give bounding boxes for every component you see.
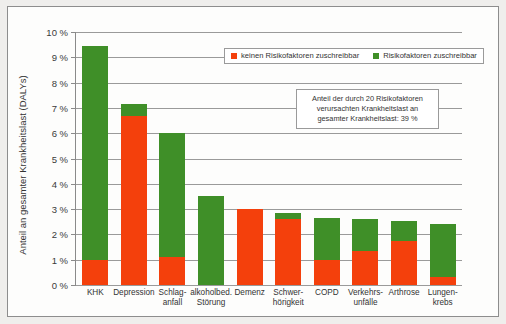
y-axis-tick (71, 285, 76, 286)
x-axis-label-line: krebs (417, 298, 468, 308)
y-axis-tick-label: 5 % (52, 153, 68, 164)
bar-segment-risikofaktoren (198, 196, 224, 285)
bar-slot (308, 32, 347, 285)
stacked-bar[interactable] (430, 224, 456, 285)
chart-frame: Anteil an gesamter Krankheitslast (DALYs… (7, 6, 499, 317)
bar-segment-keinen-risikofaktoren (314, 260, 340, 285)
y-axis-tick-label: 2 % (52, 229, 68, 240)
legend-swatch-icon (231, 53, 237, 59)
stacked-bar[interactable] (352, 219, 378, 285)
y-axis-tick-label: 7 % (52, 102, 68, 113)
bar-segment-keinen-risikofaktoren (430, 277, 456, 285)
bar-slot (230, 32, 269, 285)
stacked-bar[interactable] (314, 218, 340, 285)
bar-segment-risikofaktoren (82, 46, 108, 260)
bar-slot (153, 32, 192, 285)
bar-segment-keinen-risikofaktoren (121, 116, 147, 286)
legend-swatch-icon (373, 53, 379, 59)
y-axis-tick-label: 3 % (52, 204, 68, 215)
bar-segment-keinen-risikofaktoren (275, 219, 301, 285)
x-axis-label-lungen: Lungen-krebs (417, 288, 468, 307)
y-axis-title: Anteil an gesamter Krankheitslast (DALYs… (17, 75, 28, 254)
bar-segment-risikofaktoren (352, 219, 378, 251)
y-axis-tick-label: 6 % (52, 128, 68, 139)
bar-segment-risikofaktoren (430, 224, 456, 277)
bar-segment-risikofaktoren (314, 218, 340, 260)
gridline-0% (76, 285, 462, 286)
legend-item[interactable]: Risikofaktoren zuschreibbar (373, 51, 477, 60)
bar-segment-risikofaktoren (275, 213, 301, 219)
bar-slot (346, 32, 385, 285)
bar-slot (192, 32, 231, 285)
bar-segment-risikofaktoren (121, 104, 147, 115)
legend-label: keinen Risikofaktoren zuschreibbar (241, 51, 359, 60)
x-axis-label-line: Lungen- (417, 288, 468, 298)
legend-label: Risikofaktoren zuschreibbar (383, 51, 477, 60)
bar-segment-risikofaktoren (391, 221, 417, 241)
bar-slot (385, 32, 424, 285)
stacked-bar[interactable] (82, 46, 108, 285)
bar-segment-risikofaktoren (159, 133, 185, 257)
annotation-box-share-note: Anteil der durch 20 Risikofaktorenverurs… (296, 89, 439, 129)
bar-slot (115, 32, 154, 285)
plot-area: 10 %9 %8 %7 %6 %5 %4 %3 %2 %1 %0 % (76, 32, 462, 285)
x-axis-category-labels: KHKDepressionSchlag-anfallalkoholbed.Stö… (76, 288, 462, 322)
y-axis-tick-label: 8 % (52, 77, 68, 88)
scanned-page-background: Anteil an gesamter Krankheitslast (DALYs… (0, 0, 506, 324)
x-axis-label-line: hörigkeit (263, 298, 314, 308)
stacked-bar[interactable] (391, 221, 417, 286)
stacked-bar[interactable] (237, 209, 263, 285)
annotation-line: gesamter Krankheitslast: 39 % (302, 114, 433, 124)
y-axis-tick-label: 4 % (52, 178, 68, 189)
bar-segment-keinen-risikofaktoren (352, 251, 378, 285)
y-axis-tick-label: 9 % (52, 52, 68, 63)
bar-slot (269, 32, 308, 285)
x-axis-label-line: Störung (186, 298, 237, 308)
stacked-bar[interactable] (198, 196, 224, 285)
x-axis-label-line: unfälle (340, 298, 391, 308)
bar-segment-keinen-risikofaktoren (159, 257, 185, 285)
y-axis-tick-label: 0 % (52, 280, 68, 291)
bar-segment-keinen-risikofaktoren (82, 260, 108, 285)
bar-segment-keinen-risikofaktoren (391, 241, 417, 285)
stacked-bar[interactable] (121, 104, 147, 285)
bar-slot (76, 32, 115, 285)
stacked-bar[interactable] (275, 213, 301, 285)
annotation-line: Anteil der durch 20 Risikofaktoren (302, 94, 433, 104)
y-axis-tick-label: 10 % (46, 27, 68, 38)
y-axis-tick-label: 1 % (52, 254, 68, 265)
bar-segment-keinen-risikofaktoren (237, 209, 263, 285)
bar-slot (423, 32, 462, 285)
annotation-line: verursachten Krankheitslast an (302, 104, 433, 114)
chart-legend: keinen Risikofaktoren zuschreibbarRisiko… (224, 48, 484, 64)
stacked-bar[interactable] (159, 133, 185, 285)
legend-item[interactable]: keinen Risikofaktoren zuschreibbar (231, 51, 359, 60)
